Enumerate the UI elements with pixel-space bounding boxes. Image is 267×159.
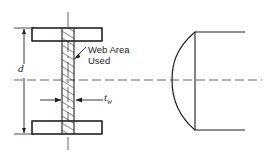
diagram-svg bbox=[0, 0, 267, 159]
shear-stress-curve bbox=[172, 32, 195, 130]
depth-label: d bbox=[18, 62, 24, 75]
web-area-leader bbox=[74, 47, 86, 59]
figure-canvas: d tw Web Area Used bbox=[0, 0, 267, 159]
right-view-shear-distribution bbox=[172, 32, 245, 130]
web-area-line-1: Web Area bbox=[88, 44, 130, 55]
left-view-ibeam bbox=[14, 12, 262, 150]
web-area-leader-arrow bbox=[74, 54, 80, 59]
web-thickness-label: tw bbox=[104, 91, 112, 107]
web-area-annotation: Web Area Used bbox=[88, 45, 130, 67]
web-hatch-area bbox=[62, 28, 74, 134]
web-thickness-subscript: w bbox=[107, 97, 112, 106]
depth-dimension bbox=[14, 28, 34, 134]
web-area-line-2: Used bbox=[88, 56, 130, 67]
